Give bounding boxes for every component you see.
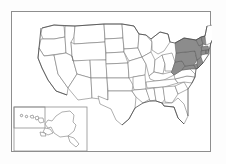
- state-connecticut: [201, 50, 206, 55]
- state-south-dakota: [105, 38, 124, 53]
- state-oklahoma: [107, 78, 133, 91]
- us-map-figure: [0, 0, 226, 164]
- state-minnesota: [122, 24, 139, 49]
- state-wyoming: [71, 42, 106, 61]
- state-oregon: [39, 37, 66, 56]
- state-north-dakota: [104, 24, 123, 39]
- state-arkansas: [133, 75, 146, 90]
- hawaii-inset-frame: [14, 107, 45, 128]
- state-maine: [205, 25, 212, 45]
- state-montana: [74, 24, 105, 44]
- state-kansas: [106, 63, 129, 78]
- hawaii-islands: [20, 114, 44, 123]
- alaska-landmass: [40, 111, 79, 147]
- state-michigan: [151, 32, 170, 54]
- map-frame: [11, 11, 211, 152]
- state-rhode-island: [206, 50, 209, 54]
- state-colorado: [90, 60, 107, 78]
- us-map-svg: [12, 12, 212, 153]
